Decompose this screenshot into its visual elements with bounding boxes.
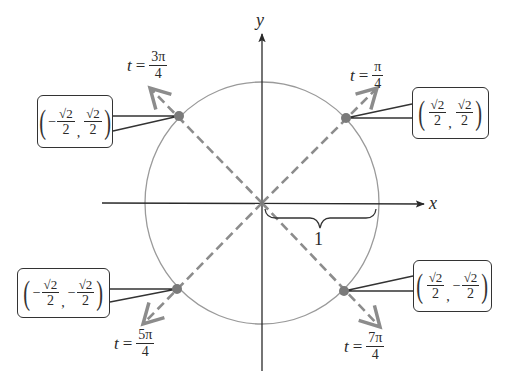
comma: ,: [448, 116, 452, 132]
t-variable: t: [350, 66, 355, 86]
radius-label: 1: [314, 229, 323, 250]
angle-label-pi-over-4: t = π 4: [350, 60, 383, 91]
x-denominator: 2: [434, 113, 441, 128]
equals-sign: =: [136, 56, 146, 76]
fraction-denominator: 4: [374, 76, 381, 91]
t-variable: t: [127, 56, 132, 76]
x-coordinate: − √22: [33, 278, 60, 308]
y-numerator: √2: [77, 278, 95, 293]
y-coordinate: √22: [83, 107, 102, 137]
fraction-denominator: 4: [155, 66, 162, 81]
angle-fraction: 3π 4: [149, 50, 167, 81]
equals-sign: =: [359, 66, 369, 86]
close-paren: ): [104, 105, 111, 139]
x-coordinate: √22: [426, 271, 445, 301]
close-paren: ): [476, 96, 483, 130]
x-axis-label: x: [429, 193, 437, 214]
fraction-numerator: 3π: [149, 50, 167, 66]
equals-sign: =: [353, 337, 363, 357]
y-numerator: √2: [462, 271, 480, 286]
angle-label-7pi-over-4: t = 7π 4: [344, 331, 384, 362]
coordinate-box-q4: ( √22 , − √22 ): [413, 260, 492, 312]
x-denominator: 2: [47, 293, 54, 308]
y-denominator: 2: [90, 122, 97, 137]
coordinate-box-q1: ( √22 , √22 ): [412, 87, 489, 139]
open-paren: (: [419, 96, 426, 130]
angle-fraction: 5π 4: [136, 328, 154, 359]
t-variable: t: [114, 334, 119, 354]
angle-fraction: 7π 4: [366, 331, 384, 362]
y-denominator: 2: [461, 113, 468, 128]
y-denominator: 2: [82, 293, 89, 308]
coordinate-box-q2: ( − √22 , √22 ): [37, 95, 113, 148]
angle-fraction: π 4: [372, 60, 383, 91]
x-numerator: √2: [427, 271, 445, 286]
y-coordinate: − √22: [453, 271, 480, 301]
open-paren: (: [417, 269, 424, 303]
comma: ,: [61, 295, 65, 311]
open-paren: (: [24, 276, 31, 310]
y-coordinate: √22: [455, 98, 474, 128]
close-paren: ): [97, 276, 104, 310]
point-q4: [339, 286, 349, 296]
x-denominator: 2: [432, 286, 439, 301]
callout-pointer-q3: [110, 289, 177, 302]
x-numerator: √2: [57, 107, 75, 122]
origin-dot: [260, 201, 264, 205]
comma: ,: [77, 125, 81, 141]
t-variable: t: [344, 337, 349, 357]
comma: ,: [446, 289, 450, 305]
close-paren: ): [482, 269, 489, 303]
ray-3pi-over-4: [150, 88, 262, 203]
y-sign: −: [68, 285, 76, 301]
angle-label-3pi-over-4: t = 3π 4: [127, 50, 167, 81]
angle-label-5pi-over-4: t = 5π 4: [114, 328, 154, 359]
callout-pointer-q1: [346, 104, 412, 118]
equals-sign: =: [123, 334, 133, 354]
point-q1: [341, 113, 351, 123]
x-numerator: √2: [429, 98, 447, 113]
ray-pi-over-4: [262, 88, 377, 203]
y-denominator: 2: [467, 286, 474, 301]
x-coordinate: − √22: [48, 107, 75, 137]
x-coordinate: √22: [428, 98, 447, 128]
x-sign: −: [33, 285, 41, 301]
unit-circle-diagram: [0, 0, 512, 383]
y-coordinate: − √22: [68, 278, 95, 308]
fraction-denominator: 4: [372, 347, 379, 362]
point-q2: [174, 111, 184, 121]
y-numerator: √2: [456, 98, 474, 113]
x-denominator: 2: [62, 122, 69, 137]
point-q3: [172, 284, 182, 294]
y-numerator: √2: [84, 107, 102, 122]
fraction-denominator: 4: [142, 344, 149, 359]
coordinate-box-q3: ( − √22 , − √22 ): [17, 268, 110, 318]
fraction-numerator: 5π: [136, 328, 154, 344]
open-paren: (: [39, 105, 46, 139]
x-sign: −: [48, 114, 56, 130]
x-numerator: √2: [42, 278, 60, 293]
fraction-numerator: 7π: [366, 331, 384, 347]
y-sign: −: [453, 278, 461, 294]
fraction-numerator: π: [372, 60, 383, 76]
y-axis-label: y: [256, 10, 264, 31]
